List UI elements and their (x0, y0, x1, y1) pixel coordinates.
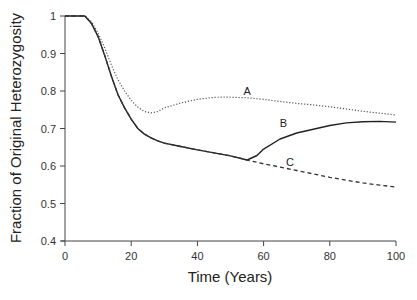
series-group (65, 16, 396, 187)
x-tick-label: 40 (191, 250, 203, 262)
x-tick-label: 0 (62, 250, 68, 262)
y-tick-label: 1 (50, 10, 56, 22)
curve-labels: ABC (243, 85, 294, 168)
y-tick-label: 0.9 (41, 48, 56, 60)
y-tick-label: 0.6 (41, 160, 56, 172)
x-axis-label: Time (Years) (188, 268, 273, 285)
x-tick-label: 100 (387, 250, 405, 262)
curve-label-b: B (280, 117, 287, 129)
curve-label-c: C (286, 156, 294, 168)
y-tick-label: 0.5 (41, 198, 56, 210)
axes: 0.40.50.60.70.80.91020406080100 (41, 10, 405, 262)
x-tick-label: 80 (324, 250, 336, 262)
y-tick-label: 0.4 (41, 235, 56, 247)
line-chart: 0.40.50.60.70.80.91020406080100 ABC Time… (0, 0, 417, 300)
curve-label-a: A (243, 85, 251, 97)
series-b-line (65, 16, 396, 160)
series-c-line (65, 16, 396, 187)
y-axis-label: Fraction of Original Heterozygosity (7, 12, 24, 243)
y-tick-label: 0.7 (41, 123, 56, 135)
x-tick-label: 20 (125, 250, 137, 262)
series-a-line (65, 16, 396, 115)
y-tick-label: 0.8 (41, 85, 56, 97)
x-tick-label: 60 (257, 250, 269, 262)
